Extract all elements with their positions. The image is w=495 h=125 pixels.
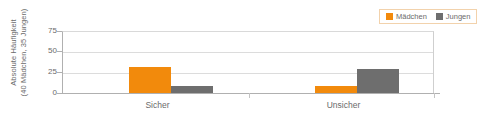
bar-sicher-jungen xyxy=(171,86,213,93)
y-axis-tick-labels: 75 50 25 0 xyxy=(38,31,57,93)
x-tick-label-sicher: Sicher xyxy=(110,100,205,110)
legend-item-maedchen[interactable]: Mädchen xyxy=(386,13,427,21)
y-tick-label-75: 75 xyxy=(38,27,57,35)
chart-legend: Mädchen Jungen xyxy=(379,9,477,24)
x-axis-separator-right xyxy=(434,93,435,98)
y-axis-title-line-1: Absolute Häufigkeit xyxy=(9,19,18,86)
y-tick-label-0: 0 xyxy=(38,89,57,97)
bar-unsicher-maedchen xyxy=(315,86,357,93)
y-axis-title: Absolute Häufigkeit (40 Mädchen, 35 Jung… xyxy=(2,0,34,105)
bar-unsicher-jungen xyxy=(357,69,399,93)
y-axis-title-line-2: (40 Mädchen, 35 Jungen) xyxy=(19,9,28,97)
x-axis-separator-center xyxy=(249,93,250,98)
bar-sicher-maedchen xyxy=(129,67,171,93)
bar-chart: Absolute Häufigkeit (40 Mädchen, 35 Jung… xyxy=(0,0,495,125)
legend-label-maedchen: Mädchen xyxy=(396,13,427,21)
legend-swatch-icon-jungen xyxy=(436,13,443,20)
legend-label-jungen: Jungen xyxy=(446,13,471,21)
y-tick-label-25: 25 xyxy=(38,68,57,76)
legend-swatch-icon-maedchen xyxy=(386,13,393,20)
x-tick-label-unsicher: Unsicher xyxy=(296,100,391,110)
x-axis-baseline xyxy=(62,93,440,94)
y-tick-label-50: 50 xyxy=(38,47,57,55)
bars-layer xyxy=(63,31,434,93)
legend-item-jungen[interactable]: Jungen xyxy=(436,13,471,21)
